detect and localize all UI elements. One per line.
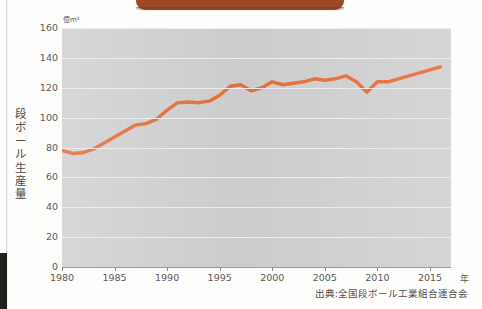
gridline <box>62 177 451 178</box>
y-axis-tick-120: 120 <box>32 82 58 93</box>
x-axis-tick-mark-1995 <box>220 267 221 271</box>
y-axis-title-char: 量 <box>10 188 30 201</box>
gridline <box>62 148 451 149</box>
y-axis-unit-label: 億m² <box>63 14 80 24</box>
y-axis-tick-100: 100 <box>32 112 58 123</box>
x-axis-tick-mark-2000 <box>272 267 273 271</box>
y-axis-tick-80: 80 <box>32 142 58 153</box>
page-canvas: 段ボール生産量 億m² 020406080100120140160 198019… <box>0 0 482 309</box>
y-axis-title-char: 産 <box>10 175 30 188</box>
top-banner-shadow <box>136 7 344 11</box>
x-axis-unit-label: 年 <box>460 272 469 285</box>
page-dark-corner <box>0 253 7 309</box>
x-axis-tick-2005: 2005 <box>313 272 337 283</box>
x-axis-tick-mark-2015 <box>430 267 431 271</box>
series-line-production <box>62 67 440 154</box>
gridline <box>62 118 451 119</box>
y-axis-title-char: 生 <box>10 162 30 175</box>
y-axis-title: 段ボール生産量 <box>10 108 30 202</box>
gridline <box>62 28 451 29</box>
source-attribution: 出典:全国段ボール工業組合連合会 <box>315 286 468 300</box>
y-axis-tick-40: 40 <box>32 201 58 212</box>
x-axis-tick-2015: 2015 <box>418 272 442 283</box>
y-axis-title-char: ル <box>10 148 30 161</box>
y-axis-tick-20: 20 <box>32 231 58 242</box>
x-axis-tick-mark-2010 <box>377 267 378 271</box>
x-axis-tick-2010: 2010 <box>365 272 389 283</box>
y-axis-title-char: ー <box>10 135 30 148</box>
y-axis-tick-160: 160 <box>32 22 58 33</box>
y-axis-title-char: ボ <box>10 121 30 134</box>
gridline <box>62 58 451 59</box>
x-axis-line <box>62 267 451 268</box>
gridline <box>62 88 451 89</box>
gridline <box>62 237 451 238</box>
x-axis-tick-mark-1990 <box>167 267 168 271</box>
chart-plot-area <box>62 28 451 267</box>
x-axis-tick-mark-1985 <box>115 267 116 271</box>
y-axis-title-char: 段 <box>10 108 30 121</box>
x-axis-tick-mark-2005 <box>325 267 326 271</box>
x-axis-tick-1980: 1980 <box>50 272 74 283</box>
x-axis-tick-1985: 1985 <box>102 272 126 283</box>
x-axis-tick-1995: 1995 <box>208 272 232 283</box>
gridline <box>62 207 451 208</box>
y-axis-tick-labels: 020406080100120140160 <box>30 0 58 309</box>
x-axis-tick-2000: 2000 <box>260 272 284 283</box>
y-axis-tick-60: 60 <box>32 171 58 182</box>
y-axis-tick-0: 0 <box>32 261 58 272</box>
x-axis-tick-1990: 1990 <box>155 272 179 283</box>
x-axis-tick-mark-1980 <box>62 267 63 271</box>
page-gutter-line-secondary <box>7 0 8 309</box>
y-axis-tick-140: 140 <box>32 52 58 63</box>
